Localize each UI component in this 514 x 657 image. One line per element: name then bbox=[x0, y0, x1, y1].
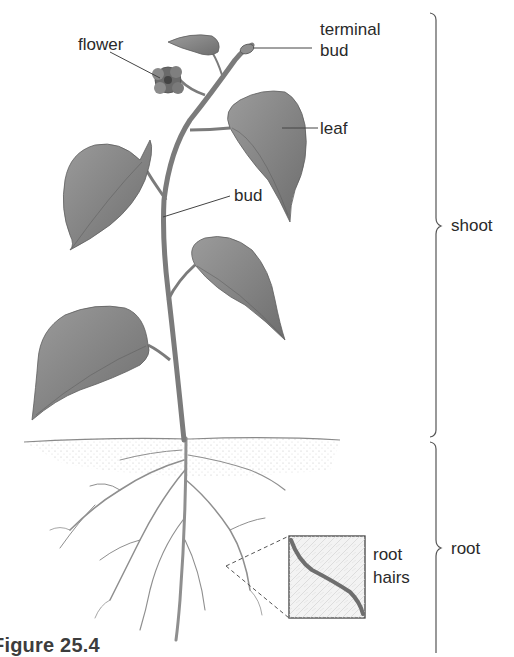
shoot-bracket bbox=[430, 13, 441, 437]
label-root: root bbox=[451, 539, 480, 558]
label-root-hairs-line2: hairs bbox=[373, 568, 410, 587]
root-bracket bbox=[430, 442, 441, 653]
label-flower: flower bbox=[78, 35, 123, 54]
flower bbox=[152, 66, 184, 94]
soil bbox=[22, 437, 340, 476]
root-hairs-inset bbox=[226, 536, 365, 618]
figure-caption: Figure 25.4 bbox=[0, 634, 100, 657]
label-leaf: leaf bbox=[320, 119, 347, 138]
label-terminal-bud-line2: bud bbox=[320, 41, 348, 60]
label-bud: bud bbox=[234, 186, 262, 205]
label-root-hairs-line1: root bbox=[373, 545, 402, 564]
label-terminal-bud-line1: terminal bbox=[320, 20, 380, 39]
label-shoot: shoot bbox=[451, 216, 493, 235]
